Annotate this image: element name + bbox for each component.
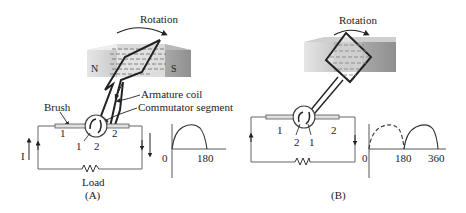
commutator-a bbox=[85, 115, 107, 137]
caption-b: (B) bbox=[331, 189, 346, 202]
waveform-tick-180-a: 180 bbox=[197, 152, 214, 164]
waveform-b bbox=[369, 124, 446, 178]
north-label: N bbox=[91, 63, 98, 74]
brush-label: Brush bbox=[44, 101, 71, 113]
waveform-tick-360-b: 360 bbox=[428, 152, 445, 164]
current-label: I bbox=[21, 150, 25, 162]
load-label: Load bbox=[82, 176, 105, 188]
magnet-a: N S bbox=[87, 44, 191, 77]
armature-coil-label: Armature coil bbox=[141, 88, 202, 100]
load-resistor-icon bbox=[82, 165, 99, 172]
load-resistor-icon bbox=[295, 158, 310, 165]
rotation-label-b: Rotation bbox=[339, 14, 377, 26]
commutator-segment-label: Commutator segment bbox=[138, 101, 233, 113]
brush-number-1-a: 1 bbox=[60, 127, 66, 139]
segment-number-2-a: 2 bbox=[94, 140, 100, 152]
brush-1-b bbox=[266, 115, 293, 119]
segment-number-1-a: 1 bbox=[76, 140, 82, 152]
south-label: S bbox=[171, 63, 177, 74]
first-half-wave-dashed bbox=[369, 125, 404, 149]
waveform-tick-180-b: 180 bbox=[395, 152, 412, 164]
brush-number-2-b: 2 bbox=[331, 124, 337, 136]
commutator-b bbox=[293, 106, 315, 128]
waveform-a bbox=[172, 124, 226, 178]
brush-2-b bbox=[315, 115, 339, 119]
segment-number-1-b: 1 bbox=[309, 136, 315, 148]
dc-generator-diagram: Rotation N S bbox=[0, 0, 466, 213]
brush-2-a bbox=[107, 124, 129, 128]
second-half-wave-rectified bbox=[404, 125, 438, 149]
brush-number-1-b: 1 bbox=[277, 124, 283, 136]
panel-b: Rotation bbox=[251, 14, 446, 202]
caption-a: (A) bbox=[85, 189, 101, 202]
brush-number-2-a: 2 bbox=[112, 127, 118, 139]
segment-number-2-b: 2 bbox=[294, 136, 300, 148]
panel-a: Rotation N S bbox=[21, 13, 233, 202]
half-wave-positive bbox=[172, 125, 207, 149]
waveform-origin-a: 0 bbox=[162, 152, 168, 164]
rotation-label-a: Rotation bbox=[140, 13, 178, 25]
waveform-origin-b: 0 bbox=[362, 152, 368, 164]
south-pole bbox=[165, 50, 191, 77]
rotation-arrow-icon bbox=[334, 30, 367, 35]
rotation-arrow-icon bbox=[117, 28, 165, 34]
